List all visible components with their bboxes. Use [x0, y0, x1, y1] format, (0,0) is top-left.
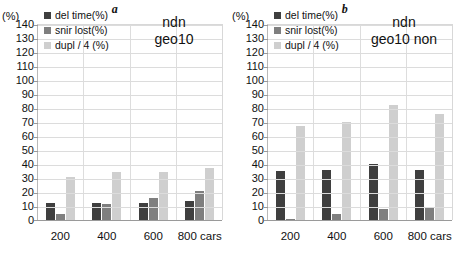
y-tick-mark: [264, 81, 268, 82]
gridline: [268, 95, 452, 96]
bar: [92, 203, 101, 221]
gridline: [38, 123, 222, 124]
legend-b: del time(%)snir lost(%)dupl / 4 (%): [274, 9, 339, 52]
y-tick-mark: [264, 53, 268, 54]
y-tick-label: 70: [252, 117, 264, 128]
y-tick-label: 120: [246, 47, 264, 58]
y-tick-mark: [34, 179, 38, 180]
gridline: [38, 67, 222, 68]
bar: [149, 198, 158, 220]
legend-label: dupl / 4 (%): [55, 40, 109, 51]
bar: [435, 114, 444, 220]
x-axis-labels-a: 200400600800 cars: [37, 222, 223, 248]
y-tick-mark: [34, 123, 38, 124]
y-tick-mark: [34, 151, 38, 152]
legend-label: del time(%): [285, 10, 338, 21]
legend-item: snir lost(%): [274, 24, 339, 37]
legend-swatch-icon: [44, 42, 51, 49]
gridline: [268, 81, 452, 82]
annotation-a: ndn geo10: [128, 14, 220, 48]
y-tick-mark: [34, 207, 38, 208]
gridline: [268, 53, 452, 54]
bar: [369, 164, 378, 220]
y-tick-mark: [34, 95, 38, 96]
plot-b: [267, 24, 453, 220]
gridline: [38, 95, 222, 96]
bar: [66, 177, 75, 220]
y-tick-mark: [34, 81, 38, 82]
x-tick-label: 400: [84, 222, 131, 248]
legend-item: del time(%): [44, 9, 109, 22]
y-tick-label: 60: [22, 131, 34, 142]
y-tick-label: 140: [16, 19, 34, 30]
y-tick-label: 120: [16, 47, 34, 58]
y-tick-mark: [264, 220, 268, 221]
y-tick-label: 110: [246, 61, 264, 72]
gridline: [268, 220, 452, 221]
y-axis-labels-b: 1401301201101009080706050403020100: [230, 24, 266, 220]
y-tick-label: 90: [252, 89, 264, 100]
x-tick-label: 600: [360, 222, 407, 248]
x-tick-label: 800 cars: [177, 222, 224, 248]
gridline: [38, 151, 222, 152]
annotation-b-line1: ndn: [358, 14, 450, 31]
y-tick-mark: [264, 67, 268, 68]
y-tick-label: 70: [22, 117, 34, 128]
legend-swatch-icon: [44, 12, 51, 19]
x-tick-label: 800 cars: [407, 222, 454, 248]
y-tick-label: 90: [22, 89, 34, 100]
legend-label: del time(%): [55, 10, 108, 21]
y-tick-mark: [34, 109, 38, 110]
y-tick-label: 100: [16, 75, 34, 86]
y-tick-mark: [264, 123, 268, 124]
legend-label: snir lost(%): [55, 25, 108, 36]
gridline: [38, 207, 222, 208]
bar: [322, 170, 331, 220]
y-tick-mark: [264, 109, 268, 110]
bar: [415, 170, 424, 220]
y-tick-mark: [34, 137, 38, 138]
y-axis-labels-a: 1401301201101009080706050403020100: [0, 24, 36, 220]
bar: [379, 209, 388, 220]
y-tick-mark: [34, 193, 38, 194]
gridline: [268, 179, 452, 180]
y-tick-label: 100: [246, 75, 264, 86]
y-tick-mark: [264, 165, 268, 166]
gridline: [268, 109, 452, 110]
y-tick-label: 130: [16, 33, 34, 44]
annotation-a-line1: ndn: [128, 14, 220, 31]
legend-item: del time(%): [274, 9, 339, 22]
gridline: [38, 109, 222, 110]
y-tick-label: 80: [252, 103, 264, 114]
legend-swatch-icon: [274, 12, 281, 19]
y-tick-label: 110: [16, 61, 34, 72]
legend-swatch-icon: [44, 27, 51, 34]
gridline: [38, 53, 222, 54]
x-tick-label: 200: [267, 222, 314, 248]
gridline: [38, 137, 222, 138]
gridline: [268, 123, 452, 124]
legend-item: snir lost(%): [44, 24, 109, 37]
gridline: [268, 165, 452, 166]
gridline: [38, 220, 222, 221]
gridline: [38, 193, 222, 194]
y-tick-label: 140: [246, 19, 264, 30]
gridline: [268, 67, 452, 68]
gridline: [268, 137, 452, 138]
annotation-a-line2: geo10: [128, 31, 220, 48]
bar: [195, 191, 204, 220]
legend-swatch-icon: [274, 27, 281, 34]
gridline: [268, 207, 452, 208]
y-tick-mark: [264, 193, 268, 194]
y-tick-label: 10: [22, 201, 34, 212]
y-tick-label: 60: [252, 131, 264, 142]
y-tick-label: 50: [252, 145, 264, 156]
y-tick-label: 50: [22, 145, 34, 156]
gridline: [268, 151, 452, 152]
y-tick-mark: [264, 207, 268, 208]
legend-label: dupl / 4 (%): [285, 40, 339, 51]
y-tick-label: 20: [22, 187, 34, 198]
plot-area-wrapper-a: 1401301201101009080706050403020100 20040…: [0, 24, 230, 250]
figure-root: a (%) 1401301201101009080706050403020100…: [0, 0, 460, 280]
bar: [46, 203, 55, 220]
